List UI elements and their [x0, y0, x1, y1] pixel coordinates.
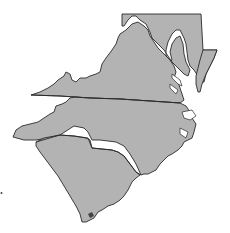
regional-map: [0, 0, 230, 233]
state-south-carolina[interactable]: [36, 135, 140, 222]
map-speck: [1, 192, 3, 194]
